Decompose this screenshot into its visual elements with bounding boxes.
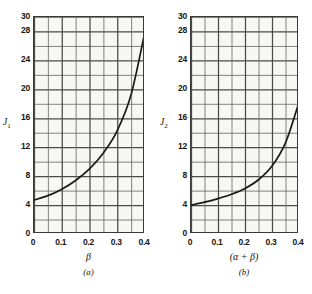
y-axis-tick-label: 4 — [25, 199, 30, 209]
plot-area — [33, 16, 144, 233]
y-axis-tick-label: 12 — [21, 141, 30, 151]
x-axis-tick-label: 0 — [31, 237, 36, 247]
y-axis-tick-label: 0 — [25, 228, 30, 238]
x-axis-tick-label: 0.1 — [211, 237, 222, 247]
y-axis-label-subscript: 2 — [164, 121, 168, 129]
y-axis-tick-label: 12 — [178, 141, 187, 151]
x-axis-label: β — [86, 251, 91, 262]
panel-caption: (a) — [83, 267, 94, 277]
y-axis-tick-label: 28 — [178, 25, 187, 35]
y-axis-tick-label: 16 — [178, 112, 187, 122]
y-axis-tick-label: 8 — [182, 170, 187, 180]
plot-area — [190, 16, 298, 233]
x-axis-tick-label: 0.2 — [238, 237, 249, 247]
x-axis-tick-label: 0 — [188, 237, 193, 247]
x-axis-tick-label: 0.4 — [138, 237, 149, 247]
y-axis-tick-label: 4 — [182, 199, 187, 209]
y-axis-label-subscript: 1 — [7, 121, 11, 129]
x-axis-tick-label: 0.4 — [292, 237, 303, 247]
y-axis-tick-label: 8 — [25, 170, 30, 180]
x-axis-tick-label: 0.3 — [265, 237, 276, 247]
data-curve — [191, 17, 298, 233]
y-axis-tick-label: 16 — [21, 112, 30, 122]
data-curve — [34, 17, 144, 233]
chart-panel-a: 04812162024283000.10.20.30.4J1β(a) — [0, 0, 156, 294]
figure-two-panel-charts: 04812162024283000.10.20.30.4J1β(a) 04812… — [0, 0, 312, 294]
y-axis-tick-label: 28 — [21, 25, 30, 35]
y-axis-tick-label: 0 — [182, 228, 187, 238]
y-axis-tick-label: 20 — [21, 83, 30, 93]
y-axis-tick-label: 20 — [178, 83, 187, 93]
panel-caption: (b) — [239, 267, 250, 277]
y-axis-tick-label: 30 — [178, 11, 187, 21]
x-axis-tick-label: 0.3 — [111, 237, 122, 247]
y-axis-label: J2 — [160, 117, 168, 130]
y-axis-tick-label: 24 — [178, 54, 187, 64]
x-axis-label: (α + β) — [230, 251, 259, 262]
chart-panel-b: 04812162024283000.10.20.30.4J2(α + β)(b) — [156, 0, 312, 294]
y-axis-tick-label: 30 — [21, 11, 30, 21]
y-axis-label: J1 — [3, 117, 11, 130]
y-axis-tick-label: 24 — [21, 54, 30, 64]
x-axis-tick-label: 0.1 — [55, 237, 66, 247]
x-axis-tick-label: 0.2 — [83, 237, 94, 247]
